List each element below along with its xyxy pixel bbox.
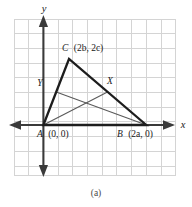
axes — [9, 15, 175, 177]
vertex-a-coords: (0, 0) — [48, 129, 69, 140]
vertex-b-coords: (2a, 0) — [128, 129, 153, 140]
vertex-c-coords: (2b, 2c) — [74, 43, 104, 54]
midpoint-label-x: X — [106, 76, 114, 86]
coordinate-plane-triangle-diagram: x y C (2b, 2c) A (0, 0) B (2a, 0) X Y (a… — [0, 0, 192, 207]
vertex-label-a: A (0, 0) — [36, 129, 69, 140]
y-axis-arrow-up — [39, 15, 48, 27]
y-axis-label: y — [41, 3, 47, 14]
median-a-to-x — [43, 92, 107, 125]
figure-caption: (a) — [91, 188, 102, 199]
vertex-label-b: B (2a, 0) — [117, 129, 153, 140]
geometry-figure-container: x y C (2b, 2c) A (0, 0) B (2a, 0) X Y (a… — [0, 0, 192, 207]
median-segments — [43, 92, 146, 125]
x-axis-label: x — [180, 119, 186, 130]
vertex-a-letter: A — [36, 129, 43, 139]
vertex-b-letter: B — [117, 129, 123, 139]
vertex-label-c: C (2b, 2c) — [62, 43, 103, 54]
vertex-c-letter: C — [62, 43, 69, 53]
median-y-to-b — [56, 92, 146, 125]
